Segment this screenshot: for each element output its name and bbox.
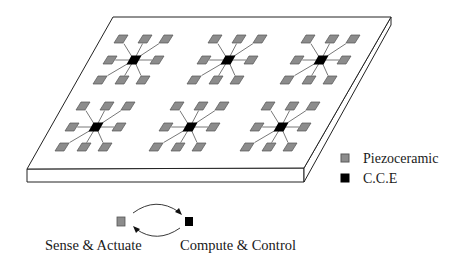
lower-arrow-arc xyxy=(136,228,180,236)
piezoceramic-legend-swatch xyxy=(341,154,349,162)
compute-control-node xyxy=(185,217,193,226)
distributed-control-plate-diagram: Piezoceramic C.C.E Sense & Actuate Compu… xyxy=(0,0,463,265)
legend: Piezoceramic C.C.E xyxy=(341,151,438,186)
arrowhead-left-icon xyxy=(133,226,140,233)
sense-compute-flow: Sense & Actuate Compute & Control xyxy=(45,204,296,253)
sense-actuate-node xyxy=(117,217,125,226)
legend-label-cce: C.C.E xyxy=(363,171,397,186)
plate-front-face xyxy=(27,168,304,182)
legend-label-piezoceramic: Piezoceramic xyxy=(363,151,438,166)
upper-arrow-arc xyxy=(133,204,179,213)
cce-legend-swatch xyxy=(341,174,349,182)
arrowhead-right-icon xyxy=(175,208,182,215)
sense-actuate-label: Sense & Actuate xyxy=(45,237,142,253)
compute-control-label: Compute & Control xyxy=(180,237,296,253)
